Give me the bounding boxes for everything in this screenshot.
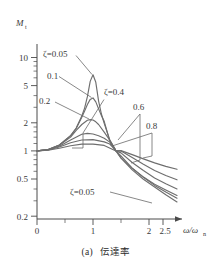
y-tick-label-2: 2 [24, 118, 29, 128]
figure-caption-index: (a) [82, 247, 93, 257]
x-axis-arrow-icon [175, 216, 182, 222]
leader-0.8-pointer [143, 156, 152, 158]
annotation-0.2: 0.2 [39, 96, 50, 106]
x-tick-label-0: 0 [35, 226, 40, 236]
figure-caption: (a)伝達率 [0, 244, 212, 258]
annotation-zeta-0.05-top: ζ=0.05 [43, 49, 68, 59]
leader-zeta-0.1 [59, 77, 92, 98]
annotation-leaders [55, 56, 152, 204]
x-axis-label-subscript: n [203, 230, 206, 237]
leader-zeta-0.05-bottom [110, 192, 152, 203]
y-tick-label-0.5: 0.5 [17, 174, 29, 184]
x-axis-label: ω/ω n [183, 225, 206, 236]
x-tick-labels: 0 1 2 2.5 [35, 226, 171, 236]
y-tick-label-5: 5 [24, 81, 29, 91]
annotation-zeta-0.05-bottom: ζ=0.05 [70, 187, 95, 197]
leader-zeta-0.05-top [76, 56, 92, 75]
y-axis-label: M t [15, 18, 27, 30]
curve-zeta-0.4 [37, 133, 177, 189]
figure-caption-text: 伝達率 [100, 246, 131, 257]
y-tick-labels: 10 5 2 1 0.5 0.2 [17, 53, 29, 222]
annotation-0.1: 0.1 [47, 71, 58, 81]
curve-zeta-0.8 [37, 144, 177, 169]
x-axis-ticks [37, 219, 163, 225]
leader-0.6-box [118, 114, 140, 140]
y-tick-label-1: 1 [24, 146, 29, 156]
y-axis-label-subscript: t [25, 23, 27, 30]
x-axis-label-base: ω/ω [183, 225, 198, 235]
x-tick-label-1: 1 [91, 226, 96, 236]
annotation-0.6: 0.6 [133, 102, 145, 112]
x-tick-label-2.5: 2.5 [159, 226, 171, 236]
y-axis-ticks [31, 58, 37, 217]
transmissibility-chart: M t [0, 0, 212, 236]
annotation-zeta-0.4: ζ=0.4 [104, 87, 125, 97]
y-tick-label-0.2: 0.2 [17, 212, 28, 222]
x-tick-label-2: 2 [147, 226, 152, 236]
axes [37, 44, 182, 222]
y-tick-label-10: 10 [19, 53, 29, 63]
figure-page: M t [0, 0, 212, 266]
annotation-0.8: 0.8 [146, 121, 158, 131]
y-axis-label-base: M [15, 18, 24, 28]
